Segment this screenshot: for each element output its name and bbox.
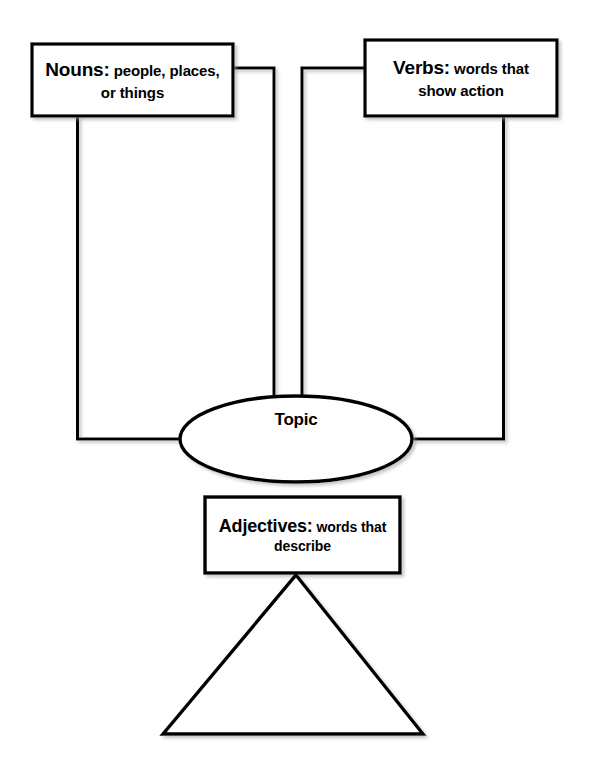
connector-nouns-to-topic-left: [78, 116, 182, 439]
nouns-box[interactable]: [32, 44, 233, 116]
worksheet-canvas: Nouns: people, places, or things Verbs: …: [0, 0, 597, 768]
connector-verbs-to-topic-top: [302, 68, 365, 400]
verbs-box[interactable]: [365, 40, 557, 116]
connector-group: [78, 68, 504, 439]
topic-ellipse[interactable]: [180, 396, 412, 482]
connector-verbs-to-topic-right: [411, 116, 504, 439]
diagram-canvas: [0, 0, 597, 768]
connector-nouns-to-topic-top: [233, 68, 274, 400]
adjectives-box[interactable]: [205, 497, 400, 573]
blank-triangle[interactable]: [163, 575, 423, 734]
